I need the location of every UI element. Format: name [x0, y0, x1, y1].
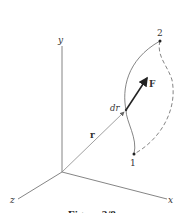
displacement-point: [125, 109, 127, 111]
y-axis-label: y: [57, 35, 64, 45]
displacement-label: dr: [110, 103, 120, 113]
point-2-label: 2: [157, 28, 163, 38]
z-axis: [18, 172, 62, 199]
z-axis-label: z: [9, 195, 15, 205]
point-2-marker: [159, 40, 162, 43]
position-vector-r: [62, 112, 124, 172]
path-curve-solid: [125, 41, 160, 154]
force-vector-F: [126, 78, 147, 110]
coordinate-axes: [18, 46, 167, 199]
point-1-marker: [133, 153, 136, 156]
path-curve-dashed: [134, 41, 173, 154]
figure-caption: Figure 2/8: [68, 208, 116, 213]
position-vector-label: r: [90, 130, 95, 140]
work-diagram: y z x r F dr 2 1 Figure 2/8: [0, 0, 181, 213]
force-vector-label: F: [149, 79, 156, 89]
x-axis: [62, 172, 167, 199]
point-1-label: 1: [130, 158, 136, 168]
x-axis-label: x: [168, 195, 173, 205]
